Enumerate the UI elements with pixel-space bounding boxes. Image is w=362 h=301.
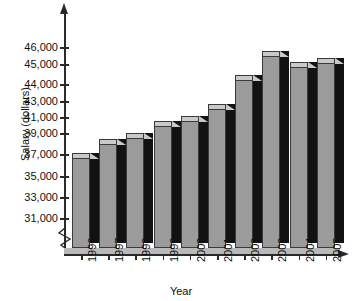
bar-side-face bbox=[90, 153, 99, 243]
bar-top-bevel bbox=[117, 139, 126, 145]
bar-front-face bbox=[317, 63, 335, 248]
x-axis-title: Year bbox=[0, 285, 362, 297]
bar-top-face bbox=[99, 139, 117, 145]
bar-top-face bbox=[235, 75, 253, 81]
bar-top-bevel bbox=[253, 75, 262, 81]
bar-top-bevel bbox=[308, 62, 317, 68]
x-axis-tick-label: 1997 bbox=[113, 238, 125, 262]
x-axis-tick-label: 1999 bbox=[168, 238, 180, 262]
x-axis-tick bbox=[271, 254, 273, 260]
bar-front-face bbox=[126, 138, 144, 248]
bar-top-bevel bbox=[280, 51, 289, 57]
bar-top-bevel bbox=[199, 116, 208, 122]
bar-side-face bbox=[226, 104, 235, 243]
x-axis-tick-label: 2005 bbox=[331, 238, 343, 262]
x-axis-tick-label: 2003 bbox=[276, 238, 288, 262]
bar-top-face bbox=[262, 51, 280, 57]
bar-front-face bbox=[235, 80, 253, 248]
bar-side-face bbox=[280, 51, 289, 243]
x-axis-tick bbox=[163, 254, 165, 260]
bar-side-face bbox=[253, 75, 262, 243]
bar-top-face bbox=[317, 58, 335, 64]
bar-top-face bbox=[208, 104, 226, 110]
bar-top-face bbox=[72, 153, 90, 159]
bar-side-face bbox=[308, 62, 317, 243]
bar bbox=[290, 62, 308, 248]
bar-top-bevel bbox=[335, 58, 344, 64]
bar-side-face bbox=[172, 121, 181, 243]
x-axis-tick-label: 2001 bbox=[222, 238, 234, 262]
x-axis-tick bbox=[190, 254, 192, 260]
x-axis-tick-label: 1998 bbox=[140, 238, 152, 262]
bar-top-bevel bbox=[226, 104, 235, 110]
x-axis-tick bbox=[81, 254, 83, 260]
bar-front-face bbox=[99, 144, 117, 248]
bar-side-face bbox=[199, 116, 208, 243]
bar-front-face bbox=[72, 158, 90, 248]
bar bbox=[317, 58, 335, 248]
bar bbox=[208, 104, 226, 248]
bar bbox=[181, 116, 199, 248]
x-axis-tick bbox=[217, 254, 219, 260]
bar-front-face bbox=[154, 126, 172, 248]
bar-top-bevel bbox=[144, 133, 153, 139]
bar-front-face bbox=[208, 109, 226, 248]
x-axis-tick bbox=[326, 254, 328, 260]
bar-top-face bbox=[126, 133, 144, 139]
bar bbox=[154, 121, 172, 248]
bar-top-face bbox=[181, 116, 199, 122]
x-axis-tick-label: 1996 bbox=[86, 238, 98, 262]
x-axis-tick-label: 2000 bbox=[195, 238, 207, 262]
bar bbox=[99, 139, 117, 248]
bar-chart: Salary (dollars) 31,00033,00035,00037,00… bbox=[0, 0, 362, 301]
x-axis-tick-label: 2004 bbox=[304, 238, 316, 262]
bar bbox=[72, 153, 90, 248]
x-axis-tick bbox=[299, 254, 301, 260]
bar bbox=[126, 133, 144, 248]
bar bbox=[235, 75, 253, 248]
bar-front-face bbox=[262, 56, 280, 248]
bar-front-face bbox=[290, 67, 308, 248]
bar-top-bevel bbox=[90, 153, 99, 159]
bar-side-face bbox=[335, 58, 344, 243]
bar-side-face bbox=[144, 133, 153, 243]
bar-top-face bbox=[154, 121, 172, 127]
x-axis-tick bbox=[244, 254, 246, 260]
x-axis-tick bbox=[135, 254, 137, 260]
bar bbox=[262, 51, 280, 248]
x-axis-tick bbox=[108, 254, 110, 260]
bar-side-face bbox=[117, 139, 126, 243]
bar-top-face bbox=[290, 62, 308, 68]
bar-top-bevel bbox=[172, 121, 181, 127]
bar-front-face bbox=[181, 121, 199, 248]
x-axis-tick-label: 2002 bbox=[249, 238, 261, 262]
